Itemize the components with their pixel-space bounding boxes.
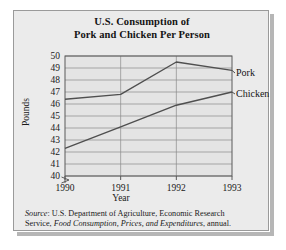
source-line-2-prefix: Service, — [25, 219, 54, 228]
y-tick-label: 42 — [38, 148, 60, 158]
y-tick-label: 44 — [38, 124, 60, 134]
source-publication-title: Food Consumption, Prices, and Expenditur… — [54, 219, 203, 228]
y-tick-label: 43 — [38, 136, 60, 146]
series-label-chicken: Chicken — [236, 89, 269, 99]
source-line-2-suffix: , annual. — [203, 219, 231, 228]
y-tick-label: 48 — [38, 76, 60, 86]
y-tick-label: 47 — [38, 88, 60, 98]
y-tick-label: 41 — [38, 160, 60, 170]
x-axis-title: Year — [14, 193, 228, 203]
y-tick-label: 40 — [38, 172, 60, 182]
y-tick-label: 50 — [38, 52, 60, 62]
y-tick-label: 46 — [38, 100, 60, 110]
source-label: Source — [25, 209, 47, 218]
y-tick-label: 49 — [38, 64, 60, 74]
series-label-pork: Pork — [236, 68, 255, 78]
source-note-line-1: Source: U.S. Department of Agriculture, … — [25, 209, 263, 219]
source-note: Source: U.S. Department of Agriculture, … — [25, 209, 263, 229]
y-tick-label: 45 — [38, 112, 60, 122]
plot-area: 5049484746454443424140 1990199119921993 … — [14, 11, 270, 232]
figure-shadow-bottom — [17, 232, 274, 236]
source-line-1-rest: : U.S. Department of Agriculture, Econom… — [47, 209, 224, 218]
x-tick-marks — [65, 176, 232, 180]
figure-panel: U.S. Consumption of Pork and Chicken Per… — [13, 10, 269, 231]
figure-shadow-right — [270, 14, 274, 235]
y-axis-title: Pounds — [21, 88, 31, 136]
source-note-line-2: Service, Food Consumption, Prices, and E… — [25, 219, 263, 229]
